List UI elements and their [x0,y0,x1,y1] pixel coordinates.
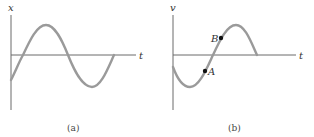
caption-a: (a) [67,123,79,133]
figure: x t (a) v t A B (b) [0,0,314,137]
point-a [203,69,207,73]
position-curve [11,25,114,87]
caption-b: (b) [228,123,241,133]
y-axis-label-b: v [170,2,176,13]
panel-a: x t (a) [8,2,144,133]
panel-b: v t A B (b) [170,2,304,133]
t-axis-label-a: t [139,50,144,61]
point-b-label: B [210,33,218,44]
point-a-label: A [207,66,215,77]
point-b [219,36,223,40]
t-axis-label-b: t [299,50,304,61]
y-axis-label-a: x [8,2,14,13]
